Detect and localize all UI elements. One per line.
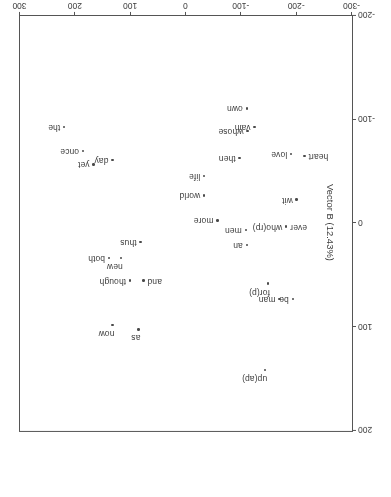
y-axis-tick: 0	[352, 223, 356, 224]
data-point-marker	[264, 369, 266, 371]
data-point-marker	[246, 107, 248, 109]
data-point-marker	[290, 153, 292, 155]
data-point-label: world	[179, 192, 200, 201]
data-point-label: as	[131, 333, 140, 342]
plot-area: up(ap)asnowbemanfor(p)andthoughnewbothth…	[20, 16, 352, 431]
data-point-label: love	[271, 150, 287, 159]
data-point-marker	[111, 324, 113, 326]
data-point-marker	[142, 279, 144, 281]
x-axis-tick: 300	[19, 12, 20, 16]
data-point-label: day	[94, 156, 108, 165]
data-point-marker	[63, 126, 65, 128]
data-point-marker	[137, 328, 139, 330]
x-axis-tick: -200	[296, 12, 297, 16]
data-point-marker	[267, 282, 269, 284]
x-axis-tick-label: 300	[12, 1, 26, 11]
data-point-marker	[203, 175, 205, 177]
y-axis-tick-label: 100	[358, 322, 372, 332]
data-point-marker	[295, 198, 297, 200]
x-axis-tick: -100	[240, 12, 241, 16]
data-point-label: ever	[290, 223, 307, 232]
plot-frame: up(ap)asnowbemanfor(p)andthoughnewbothth…	[19, 15, 353, 432]
data-point-marker	[139, 241, 141, 243]
data-point-marker	[120, 257, 122, 259]
data-point-label: up(ap)	[242, 374, 267, 383]
data-point-label: who(rp)	[253, 223, 283, 232]
x-axis-tick-label: -100	[232, 1, 249, 11]
x-axis-tick-label: -200	[288, 1, 305, 11]
data-point-label: own	[227, 104, 243, 113]
data-point-marker	[108, 257, 110, 259]
data-point-marker	[292, 298, 294, 300]
x-axis-tick-label: 0	[183, 1, 188, 11]
data-point-label: and	[147, 277, 161, 286]
y-axis-tick-label: 200	[358, 426, 372, 436]
x-axis-tick: 200	[74, 12, 75, 16]
data-point-marker	[82, 150, 84, 152]
data-point-marker	[111, 159, 113, 161]
data-point-label: then	[219, 154, 236, 163]
data-point-marker	[303, 155, 305, 157]
data-point-label: the	[48, 123, 60, 132]
y-axis-tick: 100	[352, 326, 356, 327]
data-point-label: more	[194, 216, 214, 225]
data-point-label: vain	[235, 123, 251, 132]
x-axis-tick: 0	[185, 12, 186, 16]
data-point-label: though	[100, 277, 127, 286]
data-point-label: an	[233, 241, 243, 250]
data-point-label: thus	[120, 238, 136, 247]
data-point-marker	[238, 157, 240, 159]
x-axis-tick: 100	[130, 12, 131, 16]
data-point-label: men	[225, 226, 242, 235]
data-point-marker	[203, 194, 205, 196]
data-point-marker	[253, 126, 255, 128]
x-axis-title: Vector A (26.25%)	[19, 0, 353, 1]
y-axis-tick-label: -200	[358, 11, 375, 21]
data-point-marker	[245, 229, 247, 231]
data-point-label: once	[60, 147, 79, 156]
data-point-marker	[216, 219, 218, 221]
data-point-label: wit	[282, 196, 293, 205]
data-point-marker	[92, 163, 94, 165]
x-axis-tick-label: 200	[68, 1, 82, 11]
data-point-marker	[129, 279, 131, 281]
data-point-marker	[285, 225, 287, 227]
data-point-label: yet	[78, 160, 90, 169]
scatter-plot-figure: up(ap)asnowbemanfor(p)andthoughnewbothth…	[0, 0, 391, 497]
data-point-label: new	[107, 262, 123, 271]
y-axis-tick-label: 0	[358, 218, 363, 228]
data-point-label: now	[99, 329, 115, 338]
y-axis-tick-label: -100	[358, 114, 375, 124]
x-axis-tick-label: -300	[343, 1, 360, 11]
data-point-label: for(p)	[249, 288, 270, 297]
y-axis-tick: 200	[352, 430, 356, 431]
y-axis-title: Vector B (12.43%)	[325, 14, 336, 431]
x-axis-tick-label: 100	[123, 1, 137, 11]
data-point-label: life	[189, 172, 200, 181]
data-point-marker	[246, 244, 248, 246]
data-point-label: both	[88, 254, 105, 263]
y-axis-tick: -100	[352, 119, 356, 120]
y-axis-tick: -200	[352, 15, 356, 16]
